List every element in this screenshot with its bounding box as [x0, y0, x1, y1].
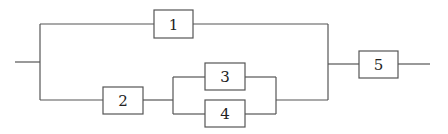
block-4: 4 [205, 100, 245, 127]
block-2: 2 [103, 87, 143, 114]
block-5: 5 [359, 51, 398, 78]
block-2-label: 2 [118, 92, 128, 110]
block-4-label: 4 [220, 105, 230, 123]
reliability-block-diagram: 1 2 3 4 5 [0, 0, 448, 134]
block-5-label: 5 [374, 56, 384, 74]
block-1-label: 1 [169, 16, 179, 34]
block-1: 1 [154, 10, 193, 38]
block-3-label: 3 [220, 68, 230, 86]
block-3: 3 [205, 63, 245, 90]
